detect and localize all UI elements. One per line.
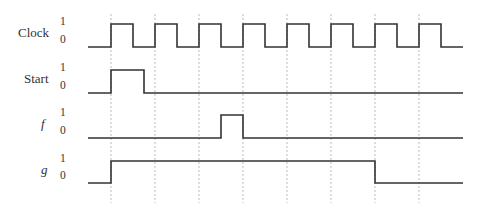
- waveform-start: [88, 70, 463, 93]
- signal-waveforms: [88, 24, 463, 183]
- f-level-low: 0: [60, 124, 66, 136]
- f-level-high: 1: [60, 106, 66, 118]
- signal-label-clock: Clock: [18, 25, 49, 41]
- timing-diagram: [0, 0, 484, 211]
- signal-label-start: Start: [24, 71, 49, 87]
- waveform-f: [88, 115, 463, 138]
- g-level-high: 1: [60, 152, 66, 164]
- waveform-g: [88, 161, 463, 183]
- signal-label-f: f: [41, 116, 45, 132]
- g-level-low: 0: [60, 169, 66, 181]
- start-level-low: 0: [60, 79, 66, 91]
- signal-label-g: g: [41, 162, 48, 178]
- waveform-clock: [88, 24, 463, 47]
- start-level-high: 1: [60, 61, 66, 73]
- clock-level-high: 1: [60, 15, 66, 27]
- clock-level-low: 0: [60, 33, 66, 45]
